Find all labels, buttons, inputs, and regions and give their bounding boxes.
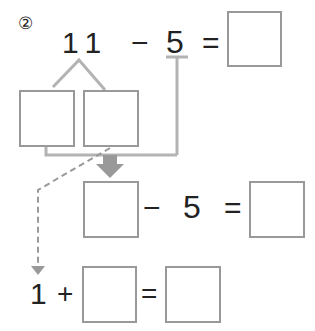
bottom-addend-1: 1 xyxy=(30,279,47,309)
middle-subtrahend-5: 5 xyxy=(183,191,201,223)
top-subtrahend-5: 5 xyxy=(166,26,184,58)
worksheet-problem: ② 11 − 5 = − 5 = 1 + = xyxy=(0,0,315,331)
middle-equals-sign: = xyxy=(224,193,242,223)
bottom-plus-sign: + xyxy=(57,280,73,308)
problem-number: ② xyxy=(18,15,33,32)
bottom-answer-box[interactable] xyxy=(165,266,221,323)
top-answer-box[interactable] xyxy=(227,11,282,67)
top-minus-sign: − xyxy=(131,28,149,58)
top-equals-sign: = xyxy=(202,28,220,58)
bottom-equals-sign: = xyxy=(141,280,157,308)
split-box-left[interactable] xyxy=(19,90,75,147)
middle-minus-sign: − xyxy=(143,193,161,223)
middle-first-box[interactable] xyxy=(83,181,139,238)
middle-answer-box[interactable] xyxy=(249,181,305,238)
minuend-11: 11 xyxy=(62,28,109,58)
split-box-right[interactable] xyxy=(83,90,139,147)
bottom-addend-box[interactable] xyxy=(82,266,137,323)
